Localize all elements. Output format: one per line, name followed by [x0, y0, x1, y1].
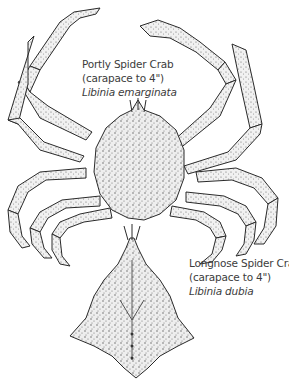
- illustration-plate: Portly Spider Crab (carapace to 4") Libi…: [0, 0, 289, 379]
- scientific-name: Libinia emarginata: [82, 85, 177, 99]
- longnose-spider-crab-drawing: [70, 224, 194, 378]
- common-name: Longnose Spider Crab: [189, 256, 289, 270]
- size-note: (carapace to 4"): [82, 71, 177, 85]
- common-name: Portly Spider Crab: [82, 57, 177, 71]
- scientific-name: Libinia dubia: [189, 284, 289, 298]
- size-note: (carapace to 4"): [189, 270, 289, 284]
- portly-spider-crab-drawing: [8, 8, 278, 266]
- longnose-spider-crab-caption: Longnose Spider Crab (carapace to 4") Li…: [189, 256, 289, 298]
- portly-spider-crab-caption: Portly Spider Crab (carapace to 4") Libi…: [82, 57, 177, 99]
